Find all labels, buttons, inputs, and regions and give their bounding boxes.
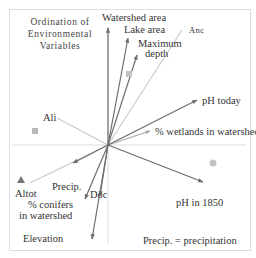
- label-conifers-2: in watershed: [19, 210, 73, 221]
- label-lake-area: Lake area: [124, 24, 165, 35]
- chart-title-line-3: Variables: [40, 41, 81, 51]
- label-precip: Precip.: [52, 181, 81, 192]
- square-marker: [32, 128, 38, 134]
- note-precipitation: Precip. = precipitation: [143, 235, 237, 246]
- vector-ali: [57, 118, 108, 145]
- label-max-depth-2: depth: [145, 48, 169, 59]
- label-conifers-1: % conifers: [28, 199, 73, 210]
- label-ph-1850: pH in 1850: [176, 197, 223, 208]
- label-watershed-area: Watershed area: [102, 12, 166, 23]
- chart-title-line-1: Ordination of: [30, 17, 89, 27]
- vector-ph-1850: [108, 145, 203, 182]
- vector-wetlands: [108, 131, 150, 145]
- chart-title-line-2: Environmental: [28, 29, 92, 39]
- label-ph-today: pH today: [202, 95, 242, 106]
- label-elevation: Elevation: [23, 233, 64, 244]
- ordination-biplot: Ordination of Environmental Variables Wa…: [0, 0, 256, 258]
- circle-marker: [210, 160, 217, 167]
- vector-ph-today: [108, 100, 197, 145]
- label-anc: Anc: [189, 25, 204, 35]
- triangle-marker: [17, 176, 25, 183]
- vector-precip: [73, 145, 108, 163]
- label-doc: Doc: [90, 189, 108, 200]
- square-marker: [126, 71, 132, 77]
- label-ali: Ali: [43, 112, 57, 123]
- label-wetlands: % wetlands in watershed: [155, 126, 256, 137]
- label-altot: Altot: [15, 188, 37, 199]
